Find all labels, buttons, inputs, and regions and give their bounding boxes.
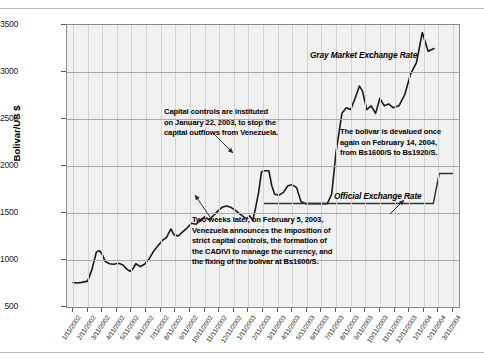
x-axis-tick [174,308,175,312]
annotation-devaluation: The bolivar is devalued once again on Fe… [340,127,480,159]
official-rate-label: Official Exchange Rate [334,191,422,201]
x-axis-tick [437,308,438,312]
x-axis-tick [364,308,365,312]
x-axis-tick [335,308,336,312]
x-axis-tick [145,308,146,312]
annotation-line: Venezuela announces the imposition of [192,226,362,237]
x-axis-tick [72,308,73,312]
y-axis-label: 500 [0,301,18,311]
x-axis-tick [204,308,205,312]
arrow-devaluation [390,200,404,214]
annotation-line: capital outflows from Venezuela. [164,128,314,139]
annotation-line: strict capital controls, the formation o… [192,236,362,247]
x-axis-tick [87,308,88,312]
x-axis-tick [160,308,161,312]
x-axis-tick [291,308,292,312]
x-axis-tick [350,308,351,312]
y-axis-label: 1500 [0,207,18,217]
x-axis-tick [394,308,395,312]
x-axis-tick [218,308,219,312]
top-divider [0,8,484,9]
y-axis-label: 3500 [0,19,18,29]
x-axis-tick [320,308,321,312]
x-axis-tick [277,308,278,312]
annotation-line: The bolivar is devalued once [340,127,480,138]
annotation-line: the CADIVI to manage the currency, and [192,247,362,258]
annotation-line: Capital controls are instituted [164,107,314,118]
y-axis-label: 2000 [0,160,18,170]
arrow-cadivi [195,195,210,217]
x-axis-tick [408,308,409,312]
x-axis-tick [306,308,307,312]
x-axis-tick [379,308,380,312]
x-axis-tick [101,308,102,312]
y-axis-label: 1000 [0,254,18,264]
chart-root: Bolivar/US $ 500100015002000250030003500… [0,0,484,364]
y-axis-label: 3000 [0,66,18,76]
annotation-line: Two weeks later, on February 5, 2003, [192,215,362,226]
x-axis-tick [130,308,131,312]
x-axis-tick [189,308,190,312]
annotation-line: the fixing of the bolivar at Bs1600/S. [192,257,362,268]
x-axis-tick [262,308,263,312]
x-axis-tick [233,308,234,312]
annotation-capital-controls: Capital controls are instituted on Janua… [164,107,314,139]
annotation-line: from Bs1600/S to Bs1920/S. [340,148,480,159]
annotation-cadivi: Two weeks later, on February 5, 2003, Ve… [192,215,362,268]
x-axis-tick [423,308,424,312]
gray-market-label: Gray Market Exchange Rate [310,50,417,60]
annotation-line: again on February 14, 2004, [340,138,480,149]
y-axis-label: 2500 [0,113,18,123]
x-axis-tick [116,308,117,312]
annotation-line: on January 22, 2003, to stop the [164,118,314,129]
x-axis-tick [247,308,248,312]
x-axis-tick [452,308,453,312]
